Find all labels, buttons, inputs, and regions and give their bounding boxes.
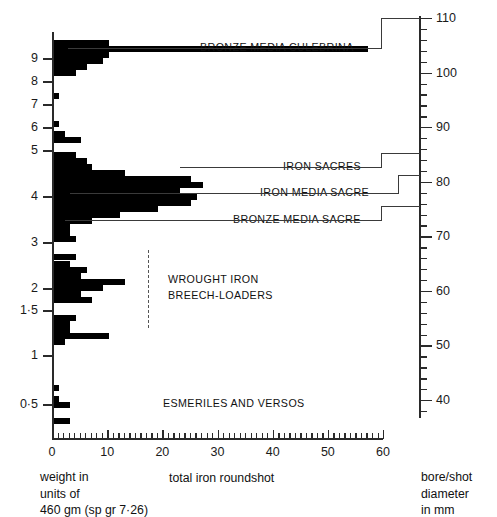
- x-tick-55: [355, 433, 356, 439]
- histogram-bar: [54, 385, 60, 391]
- left-tick-label-6: 6: [0, 121, 38, 134]
- right-tick-38: [421, 411, 427, 412]
- x-tick-31: [223, 433, 224, 439]
- x-tick-59: [378, 433, 379, 439]
- right-tick-80: [421, 182, 432, 183]
- annotation-leader-bronze-media-culebrina: [68, 48, 375, 49]
- group-label-wrought-iron-breech-loaders: WROUGHT IRONBREECH-LOADERS: [168, 272, 273, 303]
- right-tick-52: [421, 335, 427, 336]
- left-tick-label-1: 1: [0, 349, 38, 362]
- right-tick-68: [421, 247, 427, 248]
- x-tick-16: [140, 433, 141, 439]
- annotation-bracket-arm-bronze-media-sacre: [381, 206, 420, 207]
- x-tick-50: [328, 430, 329, 439]
- left-tick-4: [43, 196, 53, 198]
- x-tick-30: [218, 430, 219, 439]
- x-tick-label-50: 50: [308, 446, 348, 459]
- right-axis-caption-line-2: diameter: [421, 486, 472, 503]
- x-tick-58: [372, 433, 373, 439]
- wrought-iron-divider: [148, 250, 149, 328]
- right-tick-90: [421, 127, 432, 128]
- right-tick-44: [421, 378, 427, 379]
- right-tick-66: [421, 258, 427, 259]
- x-tick-4: [74, 433, 75, 439]
- x-tick-13: [124, 433, 125, 439]
- right-axis-caption-line-1: bore/shot: [421, 469, 472, 486]
- x-tick-46: [306, 433, 307, 439]
- right-tick-106: [421, 40, 427, 41]
- x-tick-40: [273, 430, 274, 439]
- annotation-bracket-bronze-media-sacre: [381, 206, 382, 220]
- left-tick-2: [43, 288, 53, 290]
- left-tick-6: [43, 127, 53, 129]
- x-tick-12: [118, 433, 119, 439]
- histogram-bar: [54, 137, 82, 143]
- x-tick-41: [278, 433, 279, 439]
- right-tick-46: [421, 367, 427, 368]
- x-tick-15: [135, 433, 136, 439]
- annotation-bracket-bronze-media-culebrina: [381, 18, 382, 48]
- right-tick-48: [421, 356, 427, 357]
- right-tick-110: [421, 18, 432, 19]
- right-axis-caption-line-3: in mm: [421, 502, 472, 517]
- x-tick-57: [366, 433, 367, 439]
- left-tick-label-8: 8: [0, 75, 38, 88]
- left-axis-caption-line-1: weight in: [40, 469, 148, 486]
- right-tick-86: [421, 149, 427, 150]
- right-tick-94: [421, 105, 427, 106]
- x-tick-label-40: 40: [253, 446, 293, 459]
- right-tick-label-100: 100: [436, 67, 457, 80]
- annotation-bracket-foot-iron-sacres: [371, 167, 382, 168]
- x-tick-3: [69, 433, 70, 439]
- left-axis-caption-line-2: units of: [40, 486, 148, 503]
- left-tick-label-1·5: 1·5: [0, 304, 38, 317]
- x-tick-2: [63, 433, 64, 439]
- right-tick-104: [421, 51, 427, 52]
- left-tick-7: [43, 104, 53, 106]
- left-axis-caption: weight in units of 460 gm (sp gr 7·26): [40, 469, 148, 517]
- right-axis-line: [419, 16, 421, 418]
- right-tick-40: [421, 400, 432, 401]
- annotation-leader-bronze-media-sacre: [65, 220, 375, 221]
- left-tick-1·5: [43, 310, 53, 312]
- right-tick-56: [421, 313, 427, 314]
- right-tick-70: [421, 236, 432, 237]
- left-tick-label-9: 9: [0, 52, 38, 65]
- x-tick-37: [256, 433, 257, 439]
- right-tick-60: [421, 291, 432, 292]
- x-tick-54: [350, 433, 351, 439]
- right-tick-label-80: 80: [436, 176, 450, 189]
- right-tick-72: [421, 225, 427, 226]
- histogram-bar: [54, 70, 76, 76]
- x-tick-39: [267, 433, 268, 439]
- histogram-bar: [54, 339, 65, 345]
- histogram-bar: [54, 297, 93, 303]
- right-tick-92: [421, 116, 427, 117]
- left-tick-label-5: 5: [0, 144, 38, 157]
- right-tick-label-90: 90: [436, 121, 450, 134]
- group-label-esmeriles-and-versos: ESMERILES AND VERSOS: [163, 396, 305, 412]
- left-tick-label-3: 3: [0, 236, 38, 249]
- annotation-bracket-arm-bronze-media-culebrina: [381, 18, 420, 19]
- right-tick-label-60: 60: [436, 285, 450, 298]
- left-tick-3: [43, 242, 53, 244]
- annotation-bracket-iron-sacres: [381, 153, 382, 167]
- right-tick-label-70: 70: [436, 230, 450, 243]
- right-tick-96: [421, 94, 427, 95]
- x-tick-8: [96, 433, 97, 439]
- x-tick-51: [333, 433, 334, 439]
- right-tick-100: [421, 73, 432, 74]
- x-tick-48: [317, 433, 318, 439]
- group-label-line-1: ESMERILES AND VERSOS: [163, 396, 305, 412]
- x-tick-44: [295, 433, 296, 439]
- left-tick-1: [43, 355, 53, 357]
- right-tick-76: [421, 204, 427, 205]
- right-tick-82: [421, 171, 427, 172]
- right-tick-54: [421, 324, 427, 325]
- x-tick-42: [284, 433, 285, 439]
- x-tick-21: [168, 433, 169, 439]
- histogram-bar: [54, 121, 60, 127]
- right-axis-caption: bore/shot diameter in mm: [421, 469, 472, 517]
- right-tick-label-110: 110: [436, 12, 456, 25]
- x-tick-19: [157, 433, 158, 439]
